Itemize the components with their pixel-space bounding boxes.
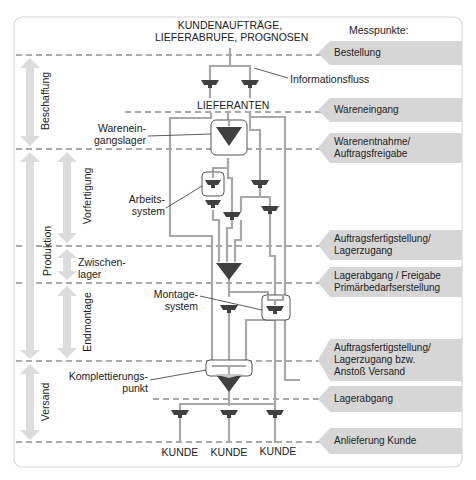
- measure-point-text: Lagerzugang bzw.: [334, 354, 462, 366]
- measure-points-heading: Messpunkte:: [349, 24, 409, 36]
- measure-point-text: Warenentnahme/: [334, 136, 462, 148]
- measure-point-stock-release: Lagerabgang / Freigabe Primärbedarfserst…: [318, 267, 462, 297]
- customer-label-2: KUNDE: [204, 446, 254, 458]
- orders-title-line2: LIEFERABRUFE, PROGNOSEN: [155, 31, 305, 43]
- measure-point-text: Auftragsfertigstellung/: [334, 342, 462, 354]
- measure-point-text: Lagerzugang: [334, 245, 462, 257]
- measure-point-order: Bestellung: [318, 41, 462, 65]
- measure-point-text: Bestellung: [334, 47, 462, 59]
- phase-shipping: Versand: [39, 372, 51, 432]
- assembly-system-line1: Montage-: [140, 288, 198, 300]
- measure-point-customer-delivery: Anlieferung Kunde: [318, 428, 462, 454]
- measure-point-text: Anstoß Versand: [334, 366, 462, 378]
- intermediate-store-line1: Zwischen-: [78, 256, 126, 268]
- measure-point-order-completion: Auftragsfertigstellung/ Lagerzugang: [318, 230, 462, 260]
- intermediate-store-line2: lager: [78, 268, 126, 280]
- work-system-line2: system: [110, 205, 165, 217]
- completion-point-line2: punkt: [60, 382, 148, 394]
- suppliers-label: LIEFERANTEN: [197, 99, 269, 111]
- work-system-label: Arbeits- system: [110, 193, 165, 217]
- measure-point-text: Lagerabgang: [334, 393, 462, 405]
- measure-point-goods-withdrawal: Warenentnahme/ Auftragsfreigabe: [318, 133, 462, 163]
- orders-title-line1: KUNDENAUFTRÄGE,: [155, 19, 305, 31]
- info-flow-label: Informationsfluss: [290, 73, 369, 85]
- goods-receipt-store-line1: Warenein-: [88, 122, 146, 134]
- diagram-canvas: KUNDENAUFTRÄGE, LIEFERABRUFE, PROGNOSEN …: [0, 0, 476, 480]
- measure-point-shipping-trigger: Auftragsfertigstellung/ Lagerzugang bzw.…: [318, 339, 462, 381]
- measure-point-text: Auftragsfreigabe: [334, 148, 462, 160]
- customer-label-3: KUNDE: [253, 445, 303, 457]
- phase-intermediate-store: Zwischen- lager: [78, 256, 126, 280]
- assembly-system-line2: system: [140, 300, 198, 312]
- work-system-line1: Arbeits-: [110, 193, 165, 205]
- phase-pre-production: Vorfertigung: [81, 161, 93, 231]
- measure-point-goods-receipt: Wareneingang: [318, 98, 462, 122]
- phase-procurement: Beschaffung: [39, 71, 51, 131]
- measure-point-text: Wareneingang: [334, 104, 462, 116]
- measure-point-text: Lagerabgang / Freigabe: [334, 270, 462, 282]
- phase-production: Produktion: [41, 221, 53, 281]
- measure-point-text: Primärbedarfserstellung: [334, 282, 462, 294]
- assembly-system-label: Montage- system: [140, 288, 198, 312]
- orders-title: KUNDENAUFTRÄGE, LIEFERABRUFE, PROGNOSEN: [155, 19, 305, 43]
- customer-label-1: KUNDE: [155, 446, 205, 458]
- completion-point-line1: Komplettierungs-: [60, 370, 148, 382]
- phase-final-assembly: Endmontage: [81, 287, 93, 357]
- goods-receipt-store-line2: gangslager: [88, 134, 146, 146]
- measure-point-text: Anlieferung Kunde: [334, 435, 462, 447]
- goods-receipt-store-label: Warenein- gangslager: [88, 122, 146, 146]
- completion-point-label: Komplettierungs- punkt: [60, 370, 148, 394]
- measure-point-stock-issue: Lagerabgang: [318, 386, 462, 412]
- measure-point-text: Auftragsfertigstellung/: [334, 233, 462, 245]
